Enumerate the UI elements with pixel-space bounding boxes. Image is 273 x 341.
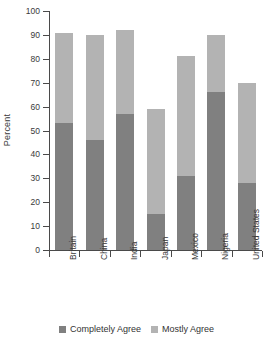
y-axis-tick-label: 10: [16, 222, 40, 230]
y-axis-tick-label-text: 50: [18, 127, 40, 135]
x-axis-label-mexico: Mexico: [179, 260, 193, 316]
x-axis-tick: [110, 251, 111, 257]
y-axis-tick-label: 30: [16, 174, 40, 182]
x-axis-tick: [201, 251, 202, 257]
chart-legend: Completely AgreeMostly Agree: [0, 322, 273, 336]
x-axis-label-text: Nigeria: [220, 233, 230, 260]
y-axis-tick: [43, 83, 49, 84]
y-axis-tick: [43, 59, 49, 60]
x-axis-tick: [262, 251, 263, 257]
x-axis-label-united-states: United States: [240, 260, 254, 316]
bar-group: [177, 56, 195, 250]
x-axis-label-india: India: [118, 260, 132, 316]
bar-group: [86, 35, 104, 250]
bar-group: [116, 30, 134, 250]
y-axis-tick-label: 70: [16, 79, 40, 87]
y-axis-tick-label: 90: [16, 31, 40, 39]
x-axis-label-japan: Japan: [149, 260, 163, 316]
bar-segment-completely-agree: [86, 140, 104, 250]
x-axis-label-text: Mexico: [190, 233, 200, 260]
bar-segment-mostly-agree: [207, 35, 225, 92]
y-axis-tick-label: 40: [16, 150, 40, 158]
x-axis-label-britain: Britain: [57, 260, 71, 316]
bar-segment-mostly-agree: [116, 30, 134, 114]
bar-segment-completely-agree: [55, 123, 73, 250]
y-axis-tick-label-text: 40: [18, 150, 40, 158]
y-axis-line: [49, 11, 50, 251]
y-axis-tick-label: 100: [16, 7, 40, 15]
x-axis-label-nigeria: Nigeria: [209, 260, 223, 316]
x-axis-tick: [140, 251, 141, 257]
x-axis-label-text: China: [99, 238, 109, 260]
y-axis-tick-label-text: 80: [18, 55, 40, 63]
y-axis-tick-label: 0: [16, 246, 40, 254]
y-axis-tick-label-text: 90: [18, 31, 40, 39]
bar-segment-mostly-agree: [147, 109, 165, 214]
legend-label: Mostly Agree: [162, 324, 214, 334]
legend-swatch-icon: [151, 326, 158, 333]
legend-item-mostly-agree[interactable]: Mostly Agree: [151, 324, 214, 334]
y-axis-tick-label-text: 10: [18, 222, 40, 230]
legend-swatch-icon: [59, 326, 66, 333]
y-axis-title: Percent: [0, 90, 14, 170]
x-axis-label-text: United States: [251, 209, 261, 260]
y-axis-tick: [43, 35, 49, 36]
bar-segment-completely-agree: [116, 114, 134, 250]
bar-segment-mostly-agree: [86, 35, 104, 140]
y-axis-tick-label-text: 30: [18, 174, 40, 182]
y-axis-tick: [43, 202, 49, 203]
y-axis-tick: [43, 107, 49, 108]
y-axis-tick: [43, 131, 49, 132]
x-axis-label-text: Britain: [68, 236, 78, 260]
bar-segment-mostly-agree: [177, 56, 195, 176]
y-axis-tick: [43, 11, 49, 12]
y-axis-tick-label-text: 60: [18, 103, 40, 111]
legend-item-completely-agree[interactable]: Completely Agree: [59, 324, 141, 334]
x-axis-tick: [171, 251, 172, 257]
bar-segment-mostly-agree: [55, 33, 73, 124]
x-axis-label-text: Japan: [160, 237, 170, 260]
stacked-bar-chart: Percent 0102030405060708090100BritainChi…: [0, 0, 273, 341]
y-axis-tick-label: 50: [16, 127, 40, 135]
y-axis-title-text: Percent: [2, 114, 12, 146]
y-axis-tick-label-text: 20: [18, 198, 40, 206]
x-axis-tick: [79, 251, 80, 257]
x-axis-tick: [232, 251, 233, 257]
y-axis-tick: [43, 226, 49, 227]
bar-segment-completely-agree: [207, 92, 225, 250]
x-axis-tick: [49, 251, 50, 257]
legend-label: Completely Agree: [70, 324, 141, 334]
bar-group: [55, 33, 73, 250]
y-axis-tick-label: 60: [16, 103, 40, 111]
x-axis-label-china: China: [88, 260, 102, 316]
bar-segment-mostly-agree: [238, 83, 256, 183]
y-axis-tick: [43, 154, 49, 155]
y-axis-tick-label: 80: [16, 55, 40, 63]
x-axis-line: [49, 250, 262, 251]
y-axis-tick-label-text: 70: [18, 79, 40, 87]
x-axis-label-text: India: [129, 242, 139, 260]
y-axis-tick-label: 20: [16, 198, 40, 206]
y-axis-tick: [43, 178, 49, 179]
bar-group: [147, 109, 165, 250]
bar-group: [207, 35, 225, 250]
y-axis-tick-label-text: 0: [18, 246, 40, 254]
y-axis-tick-label-text: 100: [18, 7, 40, 15]
